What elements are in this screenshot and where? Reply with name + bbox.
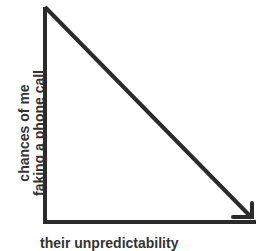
y-axis-label-line-1: chances of me bbox=[17, 33, 32, 233]
y-axis-label: chances of me faking a phone call bbox=[17, 33, 47, 233]
trend-line bbox=[45, 7, 252, 218]
y-axis-label-line-2: faking a phone call bbox=[32, 33, 47, 233]
x-axis-label: their unpredictability bbox=[40, 235, 178, 251]
